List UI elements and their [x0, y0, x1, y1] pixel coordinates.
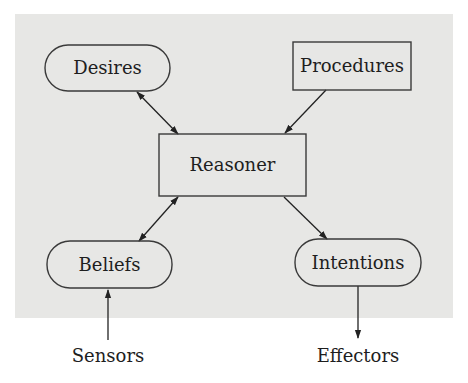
beliefs-label: Beliefs	[79, 254, 141, 275]
reasoner-label: Reasoner	[190, 154, 276, 175]
procedures-label: Procedures	[300, 55, 404, 76]
intentions-label: Intentions	[312, 252, 405, 273]
bdi-agent-diagram: Desires Procedures Reasoner Beliefs Inte…	[0, 0, 468, 383]
sensors-label: Sensors	[72, 345, 145, 366]
effectors-label: Effectors	[317, 345, 400, 366]
desires-label: Desires	[73, 57, 142, 78]
